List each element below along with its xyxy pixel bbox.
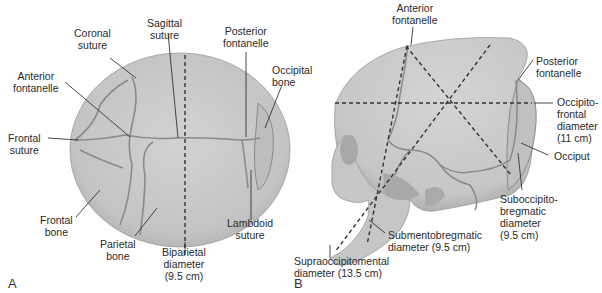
label-lambdoid-suture: Lambdoid suture — [227, 217, 273, 241]
panel-letter-a: A — [8, 276, 17, 291]
label-posterior-fontanelle-b: Posterior fontanelle — [536, 55, 582, 79]
label-sagittal-suture: Sagittal suture — [147, 17, 182, 41]
label-posterior-fontanelle-a: Posterior fontanelle — [223, 25, 269, 49]
label-anterior-fontanelle-b: Anterior fontanelle — [392, 2, 438, 26]
label-occipital-bone: Occipital bone — [272, 64, 312, 88]
label-parietal-bone: Parietal bone — [100, 238, 136, 262]
label-occiput: Occiput — [554, 150, 590, 162]
label-frontal-bone: Frontal bone — [40, 214, 73, 238]
label-coronal-suture: Coronal suture — [74, 27, 111, 51]
orbit — [340, 135, 358, 165]
panel-letter-b: B — [294, 276, 303, 291]
label-biparietal-diameter: Biparietal diameter (9.5 cm) — [162, 246, 206, 282]
label-frontal-suture: Frontal suture — [8, 132, 41, 156]
label-supraoccipitomental-diameter: Supraoccipitomental diameter (13.5 cm) — [294, 255, 389, 279]
label-submentobregmatic-diameter: Submentobregmatic diameter (9.5 cm) — [388, 229, 482, 253]
label-anterior-fontanelle-a: Anterior fontanelle — [13, 70, 59, 94]
label-suboccipitobregmatic-diameter: Suboccipito- bregmatic diameter (9.5 cm) — [500, 193, 558, 241]
label-occipitofrontal-diameter: Occipito- frontal diameter (11 cm) — [557, 96, 598, 144]
